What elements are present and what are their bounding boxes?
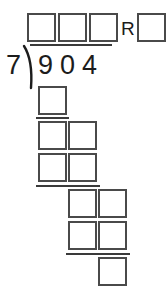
remainder-box[interactable] — [137, 13, 166, 42]
step-1-subtraction-rule — [36, 117, 69, 119]
step-2-product-box-1[interactable] — [38, 153, 67, 182]
step-3-subtraction-rule — [66, 253, 130, 255]
remainder-label: R — [121, 19, 135, 38]
final-remainder-box[interactable] — [98, 257, 127, 286]
step-3-product-box-2[interactable] — [98, 221, 127, 250]
step-1-difference-box-1[interactable] — [38, 121, 67, 150]
step-1-difference-box-2[interactable] — [68, 121, 97, 150]
quotient-box-2[interactable] — [58, 13, 87, 42]
dividend-digit-1: 9 — [38, 52, 53, 79]
dividend-digit-2: 0 — [60, 52, 75, 79]
quotient-box-3[interactable] — [89, 13, 118, 42]
step-2-difference-box-1[interactable] — [68, 189, 97, 218]
step-2-product-box-2[interactable] — [68, 153, 97, 182]
quotient-box-1[interactable] — [27, 13, 56, 42]
step-2-subtraction-rule — [36, 185, 100, 187]
dividend-digit-3: 4 — [82, 52, 97, 79]
step-3-product-box-1[interactable] — [68, 221, 97, 250]
long-division-worksheet: R 7 9 0 4 — [0, 0, 168, 294]
step-2-difference-box-2[interactable] — [98, 189, 127, 218]
divisor-value: 7 — [6, 52, 21, 79]
step-1-product-box-1[interactable] — [38, 86, 67, 115]
vinculum — [30, 44, 112, 46]
